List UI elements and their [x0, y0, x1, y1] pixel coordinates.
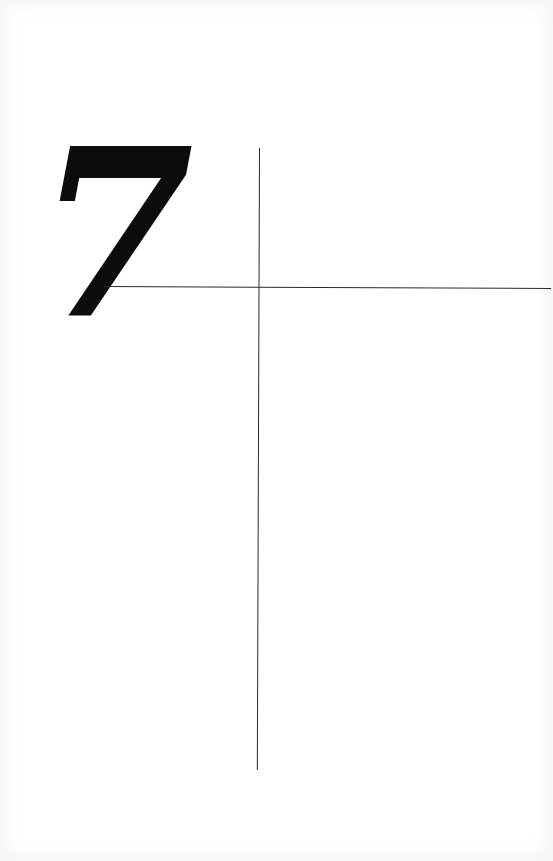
- document-page: 7: [0, 0, 553, 861]
- vertical-rule: [257, 148, 261, 770]
- page-number: 7: [36, 118, 190, 350]
